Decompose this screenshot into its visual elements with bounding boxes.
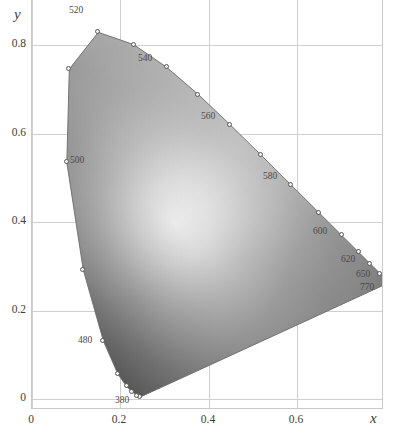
wavelength-marker-650 xyxy=(382,276,383,281)
wavelength-marker-590 xyxy=(316,210,321,215)
wavelength-label-560: 560 xyxy=(201,111,215,121)
wavelength-label-650: 650 xyxy=(356,269,370,279)
x-tick-label: 0.2 xyxy=(101,413,137,425)
wavelength-marker-390 xyxy=(134,393,139,398)
y-tick-label: 0.2 xyxy=(0,303,26,315)
wavelength-marker-490 xyxy=(80,267,85,272)
wavelength-label-600: 600 xyxy=(313,226,327,236)
chromaticity-gamut xyxy=(32,0,383,409)
wavelength-marker-620 xyxy=(367,261,372,266)
y-tick-label: 0.6 xyxy=(0,126,26,138)
wavelength-marker-560 xyxy=(227,122,232,127)
wavelength-marker-400 xyxy=(129,389,134,394)
x-tick-label: 0 xyxy=(13,413,49,425)
y-tick-label: 0 xyxy=(0,391,26,403)
wavelength-label-770: 770 xyxy=(360,282,374,292)
y-tick-label: 0.4 xyxy=(0,214,26,226)
wavelength-marker-630 xyxy=(377,271,382,276)
wavelength-label-480: 480 xyxy=(78,335,92,345)
x-axis-label: x xyxy=(370,410,377,427)
wavelength-label-620: 620 xyxy=(341,254,355,264)
x-tick-label: 0.4 xyxy=(190,413,226,425)
wavelength-label-580: 580 xyxy=(263,171,277,181)
wavelength-label-500: 500 xyxy=(70,155,84,165)
y-axis-label: y xyxy=(14,6,21,23)
plot-area: 380 480 500 520 540 560 580 600 620 650 … xyxy=(31,0,383,409)
wavelength-marker-530 xyxy=(131,42,136,47)
wavelength-marker-450 xyxy=(115,371,120,376)
y-tick-label: 0.8 xyxy=(0,37,26,49)
wavelength-label-540: 540 xyxy=(138,53,152,63)
wavelength-label-380: 380 xyxy=(115,395,129,405)
wavelength-label-520: 520 xyxy=(69,5,83,15)
x-tick-label: 0.6 xyxy=(278,413,314,425)
cie-chromaticity-figure: 0.8 0.6 0.4 0.2 0 0 0.2 0.4 0.6 y x xyxy=(0,0,394,441)
